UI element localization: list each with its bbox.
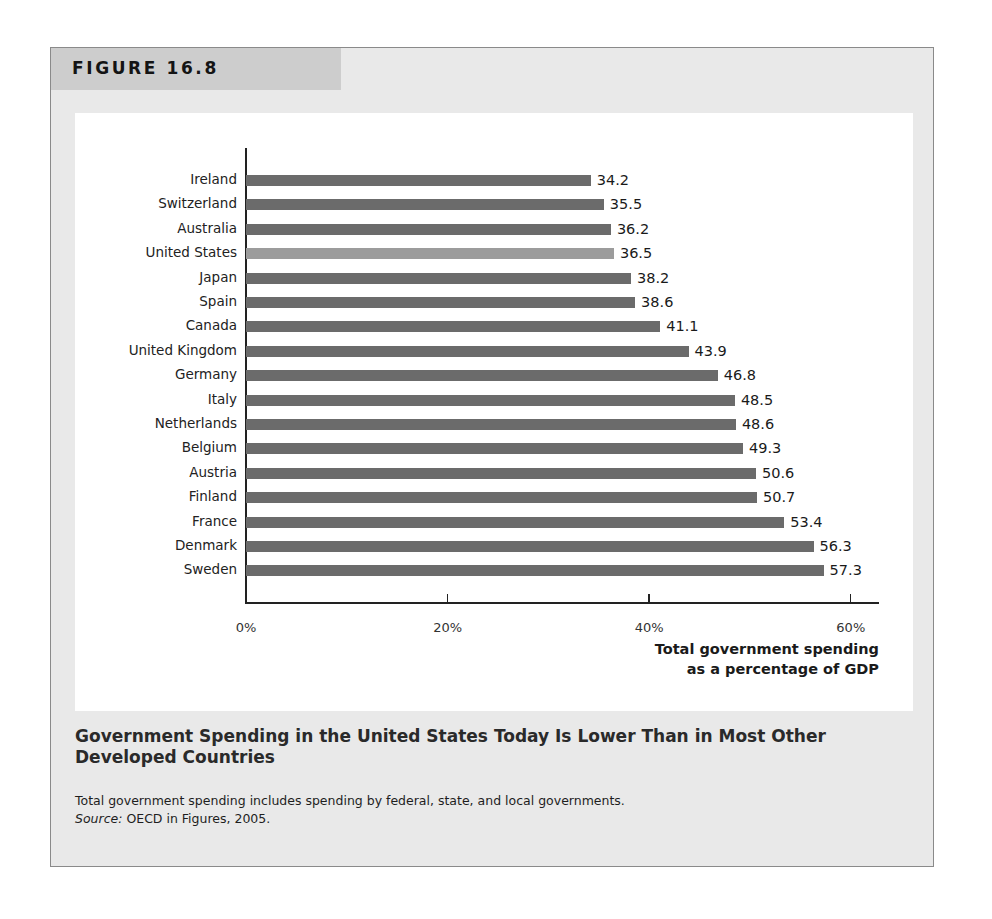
figure-tab: FIGURE 16.8 — [51, 48, 341, 90]
category-label: Canada — [186, 317, 237, 333]
x-tick-mark — [648, 594, 650, 603]
value-label: 50.7 — [763, 489, 795, 505]
value-label: 46.8 — [724, 367, 756, 383]
x-axis-title-line-2: as a percentage of GDP — [655, 659, 879, 679]
x-axis-title: Total government spending as a percentag… — [655, 639, 879, 679]
value-label: 38.6 — [641, 294, 673, 310]
category-label: Germany — [175, 366, 237, 382]
value-label: 49.3 — [749, 440, 781, 456]
value-label: 53.4 — [790, 514, 822, 530]
caption-source: Source: OECD in Figures, 2005. — [75, 810, 895, 828]
bar — [246, 517, 784, 528]
value-label: 50.6 — [762, 465, 794, 481]
bar — [246, 370, 718, 381]
bar — [246, 273, 631, 284]
category-label: Australia — [177, 220, 237, 236]
bar — [246, 199, 604, 210]
source-text: OECD in Figures, 2005. — [122, 811, 270, 826]
bar — [246, 468, 756, 479]
bar — [246, 541, 814, 552]
value-label: 57.3 — [830, 562, 862, 578]
value-label: 43.9 — [695, 343, 727, 359]
x-tick-label: 0% — [236, 620, 257, 635]
x-tick-mark — [850, 594, 852, 603]
category-label: Belgium — [182, 439, 237, 455]
value-label: 48.5 — [741, 392, 773, 408]
value-label: 38.2 — [637, 270, 669, 286]
bar — [246, 175, 591, 186]
x-tick-label: 40% — [635, 620, 664, 635]
value-label: 56.3 — [820, 538, 852, 554]
category-label: France — [192, 513, 237, 529]
bar — [246, 419, 736, 430]
x-tick-label: 20% — [433, 620, 462, 635]
category-label: Austria — [189, 464, 237, 480]
x-tick-mark — [447, 594, 449, 603]
bar — [246, 297, 635, 308]
value-label: 41.1 — [666, 318, 698, 334]
bar — [246, 395, 735, 406]
category-label: Japan — [199, 269, 237, 285]
value-label: 48.6 — [742, 416, 774, 432]
bar — [246, 346, 689, 357]
x-axis-line — [245, 602, 879, 604]
bar-row: Germany46.8 — [75, 370, 913, 394]
bar-row: Sweden57.3 — [75, 565, 913, 589]
bar — [246, 492, 757, 503]
category-label: Netherlands — [155, 415, 237, 431]
value-label: 36.2 — [617, 221, 649, 237]
bar-highlighted — [246, 248, 614, 259]
category-label: United Kingdom — [129, 342, 237, 358]
category-label: Italy — [208, 391, 237, 407]
category-label: United States — [146, 244, 237, 260]
figure-number: FIGURE 16.8 — [72, 58, 219, 78]
bar — [246, 565, 824, 576]
caption-note: Total government spending includes spend… — [75, 792, 895, 828]
x-tick-label: 60% — [836, 620, 865, 635]
x-axis-title-line-1: Total government spending — [655, 639, 879, 659]
category-label: Switzerland — [158, 195, 237, 211]
category-label: Ireland — [190, 171, 237, 187]
value-label: 35.5 — [610, 196, 642, 212]
bar-chart: 0%20%40%60% Ireland34.2Switzerland35.5Au… — [75, 113, 913, 711]
category-label: Spain — [199, 293, 237, 309]
figure-container: FIGURE 16.8 0%20%40%60% Ireland34.2Switz… — [50, 47, 934, 867]
bar — [246, 224, 611, 235]
chart-panel: 0%20%40%60% Ireland34.2Switzerland35.5Au… — [75, 113, 913, 711]
value-label: 36.5 — [620, 245, 652, 261]
category-label: Finland — [189, 488, 237, 504]
category-label: Denmark — [175, 537, 237, 553]
caption-title: Government Spending in the United States… — [75, 726, 895, 768]
source-label: Source: — [75, 811, 122, 826]
bar — [246, 321, 660, 332]
value-label: 34.2 — [597, 172, 629, 188]
bar — [246, 443, 743, 454]
category-label: Sweden — [184, 561, 237, 577]
caption-note-text: Total government spending includes spend… — [75, 792, 895, 810]
